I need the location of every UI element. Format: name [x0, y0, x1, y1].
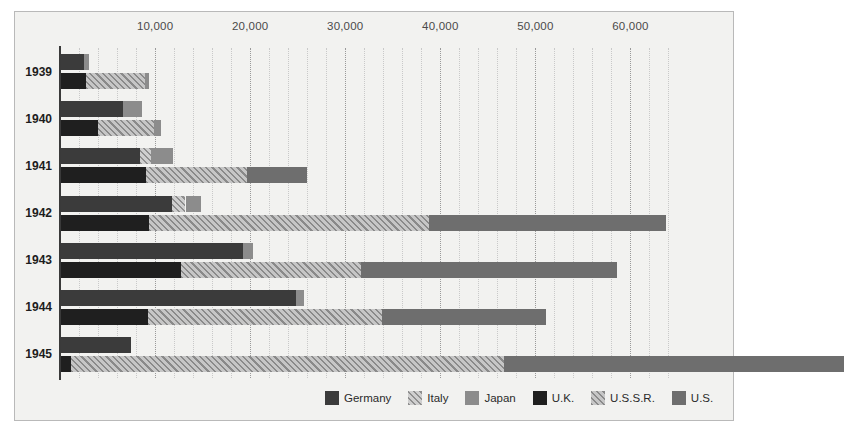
legend-item-germany[interactable]: Germany	[325, 391, 391, 405]
gridline-minor	[326, 48, 328, 378]
y-tick-label-1944: 1944	[25, 300, 52, 314]
bar-segment-uk	[60, 262, 181, 278]
legend-swatch-germany	[325, 391, 339, 405]
bar-segment-uk	[60, 167, 146, 183]
legend-item-japan[interactable]: Japan	[465, 391, 515, 405]
gridline-minor	[212, 48, 214, 378]
gridline-minor	[136, 48, 138, 378]
bar-segment-us	[429, 215, 666, 231]
legend-swatch-us	[672, 391, 686, 405]
legend-label-italy: Italy	[427, 392, 448, 404]
gridline-minor	[288, 48, 290, 378]
gridline-major	[535, 48, 537, 378]
y-axis-tick-labels: 1939194019411942194319441945	[0, 48, 52, 378]
gridline-minor	[668, 48, 670, 378]
legend-swatch-ussr	[591, 391, 605, 405]
gridline-minor	[478, 48, 480, 378]
bar-segment-ussr	[181, 262, 362, 278]
bar-segment-ussr	[146, 167, 248, 183]
bar-segment-germany	[60, 337, 131, 353]
y-tick-label-1942: 1942	[25, 206, 52, 220]
legend-label-japan: Japan	[484, 392, 515, 404]
gridline-minor	[459, 48, 461, 378]
bar-segment-germany	[60, 196, 172, 212]
bar-segment-ussr	[98, 120, 154, 136]
bar-segment-germany	[60, 290, 296, 306]
y-axis-line	[59, 46, 61, 380]
gridline-major	[250, 48, 252, 378]
legend-item-italy[interactable]: Italy	[408, 391, 448, 405]
gridline-minor	[592, 48, 594, 378]
y-tick-label-1945: 1945	[25, 347, 52, 361]
gridline-minor	[193, 48, 195, 378]
bar-segment-japan	[186, 196, 201, 212]
legend-label-ussr: U.S.S.R.	[610, 392, 655, 404]
legend-item-ussr[interactable]: U.S.S.R.	[591, 391, 655, 405]
bar-segment-japan	[243, 243, 253, 259]
gridline-minor	[231, 48, 233, 378]
legend-swatch-italy	[408, 391, 422, 405]
gridline-minor	[649, 48, 651, 378]
bar-segment-us	[247, 167, 307, 183]
chart-legend: GermanyItalyJapanU.K.U.S.S.R.U.S.	[325, 389, 721, 407]
x-tick-label: 10,000	[137, 20, 173, 32]
bar-segment-ussr	[71, 356, 504, 372]
y-tick-label-1943: 1943	[25, 253, 52, 267]
x-tick-label: 20,000	[232, 20, 268, 32]
bar-segment-japan	[296, 290, 305, 306]
bar-segment-ussr	[86, 73, 145, 89]
gridline-minor	[611, 48, 613, 378]
gridline-minor	[554, 48, 556, 378]
gridline-minor	[402, 48, 404, 378]
gridline-minor	[383, 48, 385, 378]
legend-label-germany: Germany	[344, 392, 391, 404]
x-tick-label: 60,000	[612, 20, 648, 32]
bar-segment-uk	[60, 120, 98, 136]
y-tick-label-1941: 1941	[25, 159, 52, 173]
bar-segment-germany	[60, 243, 243, 259]
gridline-minor	[79, 48, 81, 378]
gridline-minor	[117, 48, 119, 378]
y-tick-label-1940: 1940	[25, 112, 52, 126]
bar-segment-italy	[172, 196, 185, 212]
gridline-major	[440, 48, 442, 378]
bar-segment-japan	[151, 148, 173, 164]
bar-segment-uk	[60, 309, 148, 325]
bar-segment-japan	[154, 120, 161, 136]
bar-segment-germany	[60, 54, 84, 70]
bar-segment-us	[504, 356, 844, 372]
legend-item-uk[interactable]: U.K.	[533, 391, 574, 405]
gridline-minor	[573, 48, 575, 378]
gridline-minor	[174, 48, 176, 378]
gridline-major	[345, 48, 347, 378]
gridline-major	[155, 48, 157, 378]
legend-swatch-uk	[533, 391, 547, 405]
gridline-minor	[307, 48, 309, 378]
x-tick-label: 40,000	[422, 20, 458, 32]
legend-label-uk: U.K.	[552, 392, 574, 404]
x-tick-label: 30,000	[327, 20, 363, 32]
bar-segment-uk	[60, 356, 71, 372]
bar-segment-japan	[145, 73, 150, 89]
legend-label-us: U.S.	[691, 392, 713, 404]
bar-segment-germany	[60, 101, 123, 117]
bar-segment-us	[361, 262, 617, 278]
gridline-minor	[269, 48, 271, 378]
gridline-minor	[98, 48, 100, 378]
bar-segment-uk	[60, 73, 86, 89]
bar-segment-ussr	[148, 309, 382, 325]
y-tick-label-1939: 1939	[25, 65, 52, 79]
plot-area: 10,00020,00030,00040,00050,00060,000	[60, 48, 678, 378]
bar-segment-japan	[123, 101, 142, 117]
bar-segment-uk	[60, 215, 149, 231]
bar-segment-italy	[140, 148, 151, 164]
bar-segment-ussr	[149, 215, 429, 231]
bar-segment-germany	[60, 148, 140, 164]
gridline-minor	[497, 48, 499, 378]
legend-swatch-japan	[465, 391, 479, 405]
legend-item-us[interactable]: U.S.	[672, 391, 713, 405]
bar-segment-japan	[84, 54, 90, 70]
gridline-minor	[364, 48, 366, 378]
gridline-major	[630, 48, 632, 378]
